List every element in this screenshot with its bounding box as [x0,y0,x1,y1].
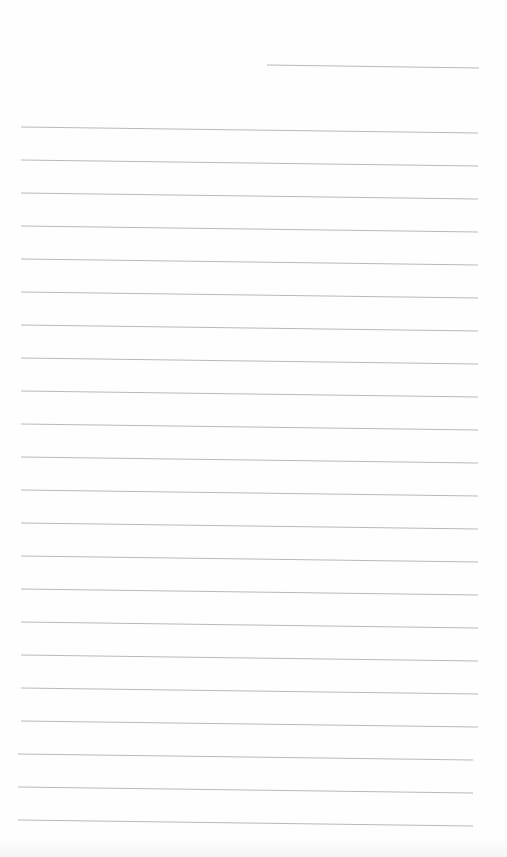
page-bottom-showthrough [0,840,507,857]
ruled-line [21,358,478,364]
ruled-line [21,193,478,199]
ruled-line [18,787,473,793]
ruled-line [21,259,478,265]
ruled-line [21,457,478,463]
ruled-line [21,523,478,529]
ruled-line [21,325,478,331]
ruled-line [21,226,478,232]
ruled-line [21,622,478,628]
ruled-line [21,655,478,661]
ruled-line [21,160,478,166]
ruled-line [18,754,473,760]
ruled-line [21,589,478,595]
header-line [267,65,479,68]
ruled-line [18,820,473,826]
ruled-line [21,721,478,727]
ruled-line [21,490,478,496]
ruled-lines [0,0,507,857]
ruled-line [21,556,478,562]
lined-paper-page [0,0,507,857]
ruled-line [21,688,478,694]
ruled-line [21,391,478,397]
ruled-line [21,292,478,298]
ruled-line [21,424,478,430]
ruled-line [21,127,478,133]
